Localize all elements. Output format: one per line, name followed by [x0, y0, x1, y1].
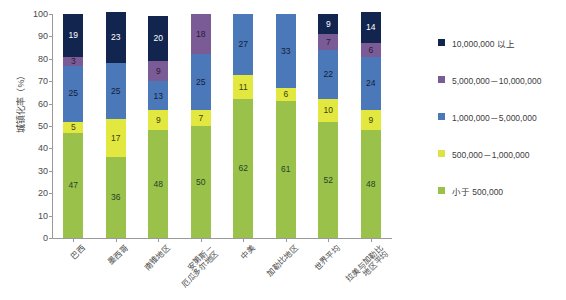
- bar-segment[interactable]: 9: [148, 61, 168, 81]
- bar-segment[interactable]: 6: [361, 43, 381, 56]
- bar-segment[interactable]: 7: [318, 34, 338, 50]
- bar-segment-value: 10: [324, 106, 333, 115]
- bar-segment-value: 17: [111, 134, 120, 143]
- bar-column[interactable]: 61633: [276, 14, 296, 238]
- bar-segment[interactable]: 18: [191, 14, 211, 54]
- bar-segment[interactable]: 9: [318, 14, 338, 34]
- bar-segment-value: 9: [326, 20, 331, 29]
- bar-column[interactable]: 48924614: [361, 12, 381, 238]
- bar-segment-value: 48: [154, 180, 163, 189]
- bar-segment[interactable]: 47: [63, 133, 83, 238]
- bar-segment[interactable]: 25: [191, 54, 211, 110]
- bar-column[interactable]: 36172523: [106, 12, 126, 238]
- bar-segment[interactable]: 50: [191, 126, 211, 238]
- bar-segment[interactable]: 23: [106, 12, 126, 64]
- bar-segment[interactable]: 27: [233, 14, 253, 74]
- bar-segment[interactable]: 17: [106, 119, 126, 157]
- bar-segment[interactable]: 9: [148, 110, 168, 130]
- bar-column[interactable]: 621127: [233, 14, 253, 238]
- legend-item[interactable]: 小于 500,000: [438, 172, 566, 209]
- bar-segment-value: 9: [156, 116, 161, 125]
- bar-segment-value: 6: [368, 46, 373, 55]
- bar-column[interactable]: 48913920: [148, 16, 168, 238]
- bar-segment-value: 6: [283, 90, 288, 99]
- bar-segment[interactable]: 22: [318, 50, 338, 99]
- legend-label: 500,000－1,000,000: [452, 148, 530, 160]
- bar-segment-value: 47: [69, 181, 78, 190]
- stacked-bar-chart: 城镇化率（%） 0102030405060708090100 475253193…: [0, 0, 566, 300]
- y-tick-label: 0: [43, 233, 48, 243]
- x-axis-line: [52, 238, 392, 239]
- x-axis-label: 巴西: [0, 244, 87, 300]
- y-tick-mark: [49, 104, 52, 105]
- bar-segment-value: 11: [239, 83, 248, 92]
- bar-segment[interactable]: 52: [318, 122, 338, 238]
- bar-segment[interactable]: 7: [191, 110, 211, 126]
- y-tick-label: 80: [38, 54, 48, 64]
- bar-segment[interactable]: 61: [276, 101, 296, 238]
- x-tick-mark: [371, 238, 372, 242]
- legend-label: 5,000,000－10,000,000: [452, 74, 541, 86]
- bar-segment-value: 62: [239, 164, 248, 173]
- x-tick-mark: [201, 238, 202, 242]
- bar-segment[interactable]: 33: [276, 14, 296, 88]
- bar-segment[interactable]: 62: [233, 99, 253, 238]
- bar-segment[interactable]: 11: [233, 75, 253, 100]
- bar-segment[interactable]: 20: [148, 16, 168, 61]
- bar-segment-value: 24: [366, 79, 375, 88]
- bar-segment-value: 20: [154, 34, 163, 43]
- bar-segment[interactable]: 14: [361, 12, 381, 43]
- y-tick-label: 100: [33, 9, 48, 19]
- x-tick-mark: [286, 238, 287, 242]
- bar-segment[interactable]: 19: [63, 14, 83, 57]
- bar-segment[interactable]: 48: [361, 130, 381, 238]
- bar-column[interactable]: 5072518: [191, 14, 211, 238]
- bar-segment-value: 27: [239, 40, 248, 49]
- bar-segment[interactable]: 5: [63, 122, 83, 133]
- y-tick-mark: [49, 14, 52, 15]
- bar-segment[interactable]: 9: [361, 110, 381, 130]
- bar-segment-value: 7: [326, 38, 331, 47]
- x-tick-mark: [328, 238, 329, 242]
- x-tick-mark: [73, 238, 74, 242]
- bar-segment-value: 48: [366, 180, 375, 189]
- y-tick-label: 50: [38, 121, 48, 131]
- bar-segment-value: 33: [281, 47, 290, 56]
- y-axis-line: [52, 14, 53, 238]
- y-tick-mark: [49, 126, 52, 127]
- legend-swatch: [438, 39, 445, 46]
- y-tick-label: 20: [38, 188, 48, 198]
- bar-segment[interactable]: 36: [106, 157, 126, 238]
- bar-segment[interactable]: 3: [63, 57, 83, 66]
- bar-segment-value: 22: [324, 70, 333, 79]
- x-tick-mark: [243, 238, 244, 242]
- bar-segment[interactable]: 48: [148, 130, 168, 238]
- bar-column[interactable]: 47525319: [63, 14, 83, 238]
- y-tick-label: 10: [38, 211, 48, 221]
- bar-column[interactable]: 52102279: [318, 14, 338, 238]
- bar-segment[interactable]: 6: [276, 88, 296, 101]
- bar-segment-value: 25: [111, 87, 120, 96]
- bar-segment[interactable]: 13: [148, 81, 168, 110]
- legend-item[interactable]: 500,000－1,000,000: [438, 135, 566, 172]
- bar-segment-value: 3: [71, 57, 76, 66]
- legend-swatch: [438, 187, 445, 194]
- legend-item[interactable]: 10,000,000 以上: [438, 24, 566, 61]
- bar-segment[interactable]: 25: [63, 66, 83, 122]
- y-tick-label: 40: [38, 143, 48, 153]
- y-tick-mark: [49, 36, 52, 37]
- legend-item[interactable]: 1,000,000－5,000,000: [438, 98, 566, 135]
- plot-area: 0102030405060708090100 47525319361725234…: [52, 14, 392, 238]
- legend-swatch: [438, 150, 445, 157]
- legend-item[interactable]: 5,000,000－10,000,000: [438, 61, 566, 98]
- bar-segment[interactable]: 10: [318, 99, 338, 121]
- bar-segment[interactable]: 24: [361, 57, 381, 111]
- bar-segment-value: 9: [156, 67, 161, 76]
- y-tick-mark: [49, 193, 52, 194]
- y-tick-mark: [49, 59, 52, 60]
- legend-label: 小于 500,000: [452, 185, 503, 197]
- bar-segment[interactable]: 25: [106, 63, 126, 119]
- bar-segment-value: 25: [196, 78, 205, 87]
- bar-segment-value: 13: [154, 92, 163, 101]
- bar-segment-value: 52: [324, 176, 333, 185]
